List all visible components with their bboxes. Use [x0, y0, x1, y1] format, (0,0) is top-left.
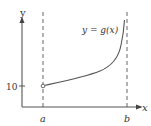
open-endpoint	[41, 84, 45, 88]
x-mark-b: b	[124, 113, 130, 124]
y-axis-label: y	[19, 7, 26, 18]
x-mark-a: a	[40, 113, 46, 124]
curve-label: y = g(x)	[81, 25, 119, 35]
function-graph: y x 10 a b y = g(x)	[0, 0, 151, 126]
y-tick-label: 10	[6, 82, 18, 92]
x-axis-label: x	[142, 102, 148, 113]
